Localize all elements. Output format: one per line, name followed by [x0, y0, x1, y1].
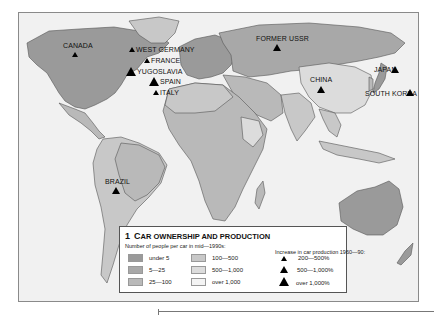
- legend-item-over-1000-pct: over 1,000%: [279, 277, 330, 286]
- triangle-medium-icon-former-ussr: [273, 44, 281, 51]
- legend-item-under-5: under 5: [128, 254, 169, 262]
- india: [281, 93, 315, 141]
- swatch-25-100: [128, 278, 143, 286]
- label-brazil: BRAZIL: [105, 178, 130, 186]
- legend-item-over-1000: over 1,000: [191, 278, 240, 286]
- label-former-ussr: FORMER USSR: [256, 35, 309, 43]
- legend-item-25-100: 25—100: [128, 278, 172, 286]
- legend-item-100-500: 100—500: [191, 254, 238, 262]
- triangle-medium-icon-china: [317, 86, 325, 93]
- legend-item-500-1000-pct: 500—1,000%: [280, 266, 333, 273]
- triangle-large-icon-yugoslavia: [126, 67, 136, 76]
- swatch-5-25: [128, 266, 143, 274]
- swatch-over-1000: [191, 278, 206, 286]
- swatch-under-5: [128, 254, 143, 262]
- triangle-medium-icon-brazil: [112, 187, 120, 194]
- indonesia: [319, 141, 395, 163]
- map-legend: 1 CAR OWNERSHIP AND PRODUCTION Number of…: [119, 226, 347, 293]
- swatch-500-1000: [191, 266, 206, 274]
- label-yugoslavia: YUGOSLAVIA: [137, 68, 183, 76]
- label-canada: CANADA: [63, 42, 93, 50]
- legend-title: 1 CAR OWNERSHIP AND PRODUCTION: [125, 231, 270, 241]
- page-rule-tick: [158, 309, 159, 315]
- korea: [369, 77, 373, 91]
- triangle-large-icon-spain: [149, 77, 159, 86]
- label-china: CHINA: [310, 76, 332, 84]
- triangle-small-icon-italy: [153, 90, 159, 95]
- triangle-large-icon: [279, 277, 289, 286]
- legend-item-500-1000: 500—1,000: [191, 266, 243, 274]
- triangle-small-icon-canada: [72, 52, 78, 57]
- triangle-small-icon-west-germany: [129, 47, 135, 52]
- new-zealand: [397, 243, 413, 265]
- label-france: FRANCE: [151, 57, 180, 65]
- triangle-small-icon-france: [144, 58, 150, 63]
- ownership-heading: Number of people per car in mid—1990s:: [125, 243, 226, 249]
- australia: [339, 181, 403, 235]
- legend-item-200-500: 200—500%: [281, 255, 329, 261]
- label-spain: SPAIN: [160, 78, 181, 86]
- triangle-medium-icon: [280, 266, 288, 273]
- triangle-medium-icon-south-korea: [406, 89, 414, 96]
- madagascar: [255, 181, 265, 209]
- label-italy: ITALY: [160, 89, 179, 97]
- triangle-medium-icon-japan: [391, 66, 399, 73]
- label-west-germany: WEST GERMANY: [136, 46, 195, 54]
- legend-item-5-25: 5—25: [128, 266, 165, 274]
- page-rule: [158, 311, 434, 312]
- triangle-small-icon: [281, 256, 287, 261]
- swatch-100-500: [191, 254, 206, 262]
